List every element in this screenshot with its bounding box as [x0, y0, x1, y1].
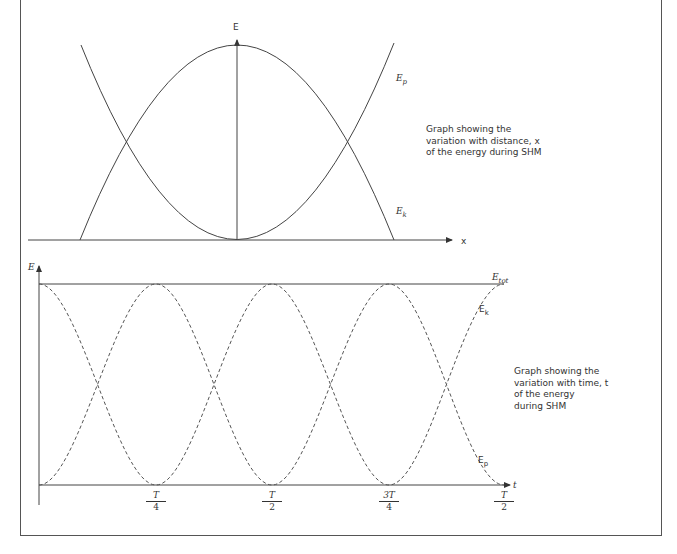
energy-graphs-canvas: [0, 0, 677, 554]
top-ep-label: Ep: [396, 73, 407, 88]
tick-t-quarter: T 4: [146, 490, 166, 513]
bottom-y-axis-label: E: [28, 262, 35, 273]
tick-three-quarter-t: 3T 4: [379, 490, 399, 513]
top-graph-caption: Graph showing the variation with distanc…: [426, 124, 542, 159]
top-ek-label: Ek: [396, 206, 407, 221]
tick-t-end: T 2: [494, 490, 514, 513]
top-x-axis-label: x: [461, 236, 466, 247]
bottom-graph: [39, 266, 510, 505]
etot-label: Etot: [492, 272, 508, 287]
bottom-ek-curve: [39, 284, 504, 485]
bottom-ep-curve: [39, 284, 504, 485]
bottom-graph-caption: Graph showing the variation with time, t…: [514, 366, 608, 412]
bottom-ep-label: Ep: [478, 455, 488, 470]
top-y-axis-label: E: [233, 22, 239, 33]
bottom-ek-label: Ek: [479, 304, 489, 319]
tick-t-half: T 2: [262, 490, 282, 513]
top-graph: [28, 40, 452, 240]
